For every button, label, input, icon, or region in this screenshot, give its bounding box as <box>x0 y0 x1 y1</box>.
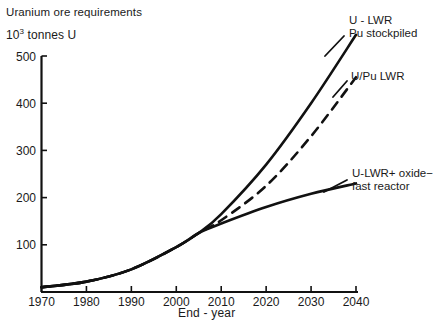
x-tick-label: 2030 <box>298 295 325 309</box>
x-axis-title: End - year <box>178 306 235 320</box>
y-tick-label: 100 <box>16 238 36 252</box>
x-tick-label: 2040 <box>343 295 370 309</box>
plot-area: 100200300400500 197019801990200020102020… <box>0 0 435 324</box>
series-group <box>42 35 357 288</box>
x-tick-label: 1990 <box>118 295 145 309</box>
y-tick-label: 300 <box>16 144 36 158</box>
series-line <box>42 183 357 287</box>
series-label-line2: Pu stockpiled <box>349 27 417 40</box>
series-label-line1: U-LWR+ oxide− <box>352 167 433 180</box>
y-tick-label: 200 <box>16 191 36 205</box>
series-label-1: U/Pu LWR <box>351 70 404 83</box>
x-tick-label: 2020 <box>253 295 280 309</box>
uranium-ore-requirements-chart: Uranium ore requirements 103 tonnes U 10… <box>0 0 435 324</box>
label-leader-line-1 <box>333 81 347 97</box>
x-tick-label: 1980 <box>73 295 100 309</box>
series-label-line1: U - LWR <box>349 14 417 27</box>
x-tick-label: 1970 <box>28 295 55 309</box>
series-line <box>42 77 357 287</box>
series-label-line1: U/Pu LWR <box>351 70 404 83</box>
axes <box>41 56 358 292</box>
y-tick-label: 500 <box>16 50 36 64</box>
series-label-2: U-LWR+ oxide−fast reactor <box>352 167 433 193</box>
label-leader-line-0 <box>325 36 344 56</box>
series-line <box>42 35 357 288</box>
series-label-line2: fast reactor <box>352 180 433 193</box>
series-label-0: U - LWRPu stockpiled <box>349 14 417 40</box>
y-tick-label: 400 <box>16 97 36 111</box>
